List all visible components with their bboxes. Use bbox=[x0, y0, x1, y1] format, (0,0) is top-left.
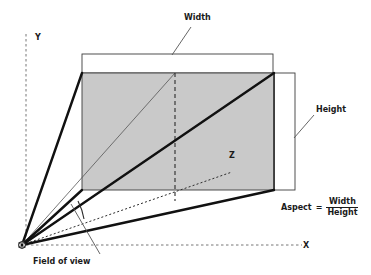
aspect-formula-name: Aspect bbox=[281, 204, 312, 212]
field-of-view-label: Field of view bbox=[33, 258, 90, 266]
x-axis-label: X bbox=[303, 242, 309, 250]
diagram-canvas: Width Height Y X Z Field of view Aspect … bbox=[0, 0, 371, 275]
y-axis-label: Y bbox=[35, 34, 41, 42]
width-guide-rectangle bbox=[82, 54, 273, 73]
height-guide-rectangle bbox=[274, 73, 295, 190]
frustum-edge-bottom-right bbox=[22, 190, 274, 245]
near-plane-rectangle bbox=[82, 73, 274, 190]
frustum-edge-top-left bbox=[22, 73, 82, 245]
camera-origin-marker bbox=[18, 242, 26, 249]
aspect-denominator: Height bbox=[326, 209, 358, 217]
height-label: Height bbox=[316, 106, 346, 114]
width-leader-line bbox=[172, 27, 191, 55]
z-axis-label: Z bbox=[229, 152, 235, 160]
aspect-ratio-formula: Aspect = Width Height bbox=[281, 198, 358, 218]
width-label: Width bbox=[184, 14, 211, 22]
height-leader-line bbox=[294, 115, 314, 138]
aspect-fraction: Width Height bbox=[326, 198, 358, 218]
frustum-diagram-svg bbox=[0, 0, 371, 275]
aspect-numerator: Width bbox=[328, 198, 357, 206]
aspect-formula-equals: = bbox=[316, 204, 323, 212]
